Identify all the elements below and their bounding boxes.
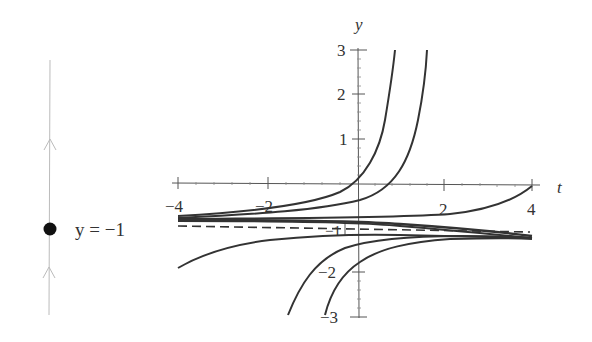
t-axis-label: t xyxy=(557,178,563,197)
x-tick-label: 2 xyxy=(439,200,448,219)
equilibrium-dot xyxy=(44,223,57,236)
y-tick-label: 1 xyxy=(339,130,348,149)
equilibrium-label: y = −1 xyxy=(75,219,125,240)
solution-curves xyxy=(178,50,532,315)
x-tick-label: −4 xyxy=(165,197,184,216)
y-tick-label: 2 xyxy=(337,85,346,104)
y-tick-label: 3 xyxy=(337,41,346,60)
phase-line xyxy=(43,60,57,315)
figure: y = −1 y t −4 − xyxy=(0,0,592,342)
y-axis-label: y xyxy=(353,15,363,34)
x-tick-label: 4 xyxy=(527,200,536,219)
y-tick-label: −2 xyxy=(318,263,336,282)
axes xyxy=(172,48,540,318)
y-tick-label: −3 xyxy=(320,308,338,327)
